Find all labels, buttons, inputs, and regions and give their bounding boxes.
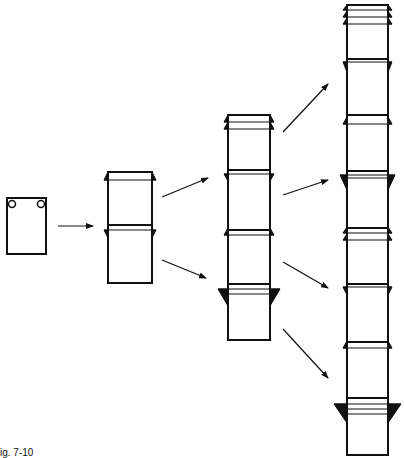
hole-icon: [38, 201, 45, 208]
diagram-canvas: [0, 0, 404, 458]
arrow-stage3-to-stage4-2: [283, 180, 328, 195]
stage-4-column: [334, 5, 401, 455]
stage-2-column: [104, 172, 156, 283]
arrow-stage3-to-stage4-4: [283, 329, 328, 378]
stage-1-sheet: [7, 198, 46, 254]
arrow-stage2-to-stage3-upper: [162, 178, 208, 197]
hole-icon: [9, 201, 16, 208]
stage-3-column: [218, 115, 280, 340]
arrow-stage3-to-stage4-3: [283, 262, 328, 288]
figure-caption: ig. 7-10: [0, 447, 33, 458]
arrow-stage3-to-stage4-1: [283, 84, 328, 132]
arrow-stage2-to-stage3-lower: [162, 260, 206, 278]
